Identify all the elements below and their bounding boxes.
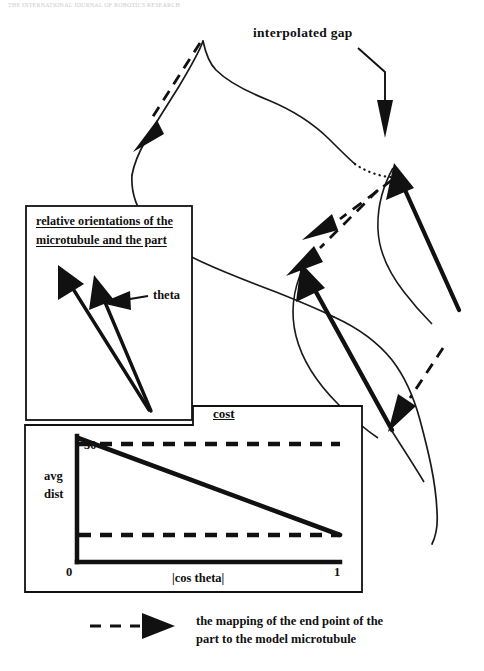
mapping-arrow-center bbox=[286, 190, 378, 276]
legend-caption-line2: part to the model microtubule bbox=[196, 630, 383, 648]
legend-dashed-arrow bbox=[90, 613, 175, 639]
mapping-arrow-lower-right bbox=[388, 348, 443, 432]
inset-orientation-title: relative orientations of the microtubule… bbox=[36, 212, 184, 250]
figure-root: THE INTERNATIONAL JOURNAL OF ROBOTICS RE… bbox=[0, 0, 484, 671]
interpolated-gap-label: interpolated gap bbox=[253, 25, 353, 42]
legend-caption: the mapping of the end point of the part… bbox=[196, 612, 383, 648]
mapping-arrow-top-left bbox=[133, 43, 200, 152]
part-tail-lower-right bbox=[390, 428, 424, 482]
cost-chart-title: cost bbox=[213, 406, 235, 422]
inset-orientation-title-line1: relative orientations of the bbox=[36, 212, 184, 231]
cost-chart-x-tick-left: 0 bbox=[66, 565, 72, 581]
cost-chart-y-axis-label-line2: dist bbox=[44, 487, 63, 503]
cost-chart-box bbox=[25, 406, 362, 592]
cost-chart-y-axis-label-line1: avg bbox=[44, 469, 63, 485]
theta-label: theta bbox=[153, 288, 180, 304]
cost-chart-x-tick-right: 1 bbox=[334, 565, 340, 581]
figure-illustration bbox=[0, 0, 484, 671]
part-segment-upper bbox=[378, 163, 459, 324]
inset-orientation-title-line2: microtubule and the part bbox=[36, 231, 184, 250]
legend-caption-line1: the mapping of the end point of the bbox=[196, 612, 383, 630]
cost-chart-y-tick-top: 30 bbox=[84, 438, 97, 454]
cost-chart-x-axis-label: |cos theta| bbox=[172, 571, 224, 587]
interpolated-gap-pointer-arrow bbox=[358, 48, 393, 138]
